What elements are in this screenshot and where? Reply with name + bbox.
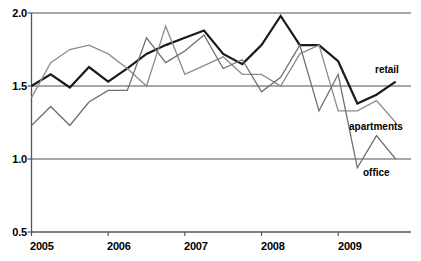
gridlines [32,13,412,159]
chart-container: 2.0 1.5 1.0 0.5 2005 2006 2007 2008 2009… [0,0,421,261]
y-tick-label-0_5: 0.5 [3,226,27,238]
y-tick-label-1: 1.0 [3,153,27,165]
x-tick-label-2009: 2009 [338,240,362,252]
series-label-office: office [363,167,390,178]
x-tick-label-2007: 2007 [184,240,208,252]
x-tick-label-2006: 2006 [107,240,131,252]
series-line-office [32,35,396,168]
y-tick-label-1_5: 1.5 [3,80,27,92]
data-series [32,16,396,168]
x-tick-label-2005: 2005 [30,240,54,252]
y-tick-label-2: 2.0 [3,7,27,19]
x-tick-label-2008: 2008 [261,240,285,252]
series-label-retail: retail [375,64,399,75]
series-label-apartments: apartments [349,121,403,132]
